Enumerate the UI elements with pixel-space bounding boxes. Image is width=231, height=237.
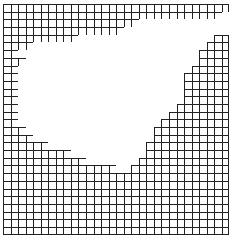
grid-cell (101, 212, 109, 220)
grid-cell (11, 58, 19, 66)
grid-cell (146, 173, 154, 181)
blank-cell (154, 89, 162, 97)
grid-cell (207, 150, 215, 158)
grid-cell (222, 219, 230, 227)
blank-cell (169, 81, 177, 89)
grid-cell (222, 212, 230, 220)
grid-cell (3, 19, 11, 27)
blank-cell (146, 50, 154, 58)
grid-cell (26, 173, 34, 181)
grid-cell (101, 4, 109, 12)
grid-cell (48, 19, 56, 27)
grid-cell (222, 66, 230, 74)
grid-cell (139, 173, 147, 181)
grid-cell (139, 189, 147, 197)
grid-cell (116, 219, 124, 227)
blank-cell (71, 50, 79, 58)
grid-cell (146, 196, 154, 204)
grid-cell (222, 96, 230, 104)
blank-cell (86, 150, 94, 158)
blank-cell (161, 50, 169, 58)
blank-cell (131, 104, 139, 112)
grid-cell (18, 150, 26, 158)
grid-cell (48, 173, 56, 181)
grid-cell (184, 112, 192, 120)
blank-cell (124, 135, 132, 143)
grid-cell (177, 189, 185, 197)
blank-cell (109, 66, 117, 74)
grid-cell (199, 227, 207, 235)
blank-cell (192, 27, 200, 35)
grid-cell (199, 73, 207, 81)
blank-cell (116, 135, 124, 143)
blank-cell (86, 112, 94, 120)
blank-cell (41, 112, 49, 120)
blank-cell (169, 73, 177, 81)
grid-cell (3, 227, 11, 235)
blank-cell (116, 35, 124, 43)
blank-cell (86, 142, 94, 150)
grid-cell (78, 12, 86, 20)
blank-cell (169, 66, 177, 74)
blank-cell (124, 73, 132, 81)
grid-cell (161, 189, 169, 197)
grid-cell (154, 4, 162, 12)
grid-cell (56, 35, 64, 43)
blank-cell (63, 135, 71, 143)
grid-cell (41, 158, 49, 166)
grid-cell (192, 158, 200, 166)
blank-cell (116, 119, 124, 127)
blank-cell (124, 104, 132, 112)
blank-cell (192, 35, 200, 43)
grid-cell (214, 58, 222, 66)
blank-cell (94, 35, 102, 43)
grid-cell (199, 104, 207, 112)
blank-cell (101, 150, 109, 158)
grid-cell (18, 181, 26, 189)
grid-cell (11, 212, 19, 220)
blank-cell (124, 58, 132, 66)
grid-cell (161, 165, 169, 173)
blank-cell (101, 104, 109, 112)
blank-cell (161, 42, 169, 50)
grid-cell (63, 19, 71, 27)
grid-cell (207, 50, 215, 58)
blank-cell (116, 58, 124, 66)
blank-cell (124, 42, 132, 50)
blank-cell (41, 73, 49, 81)
grid-cell (63, 173, 71, 181)
blank-cell (71, 119, 79, 127)
grid-cell (41, 142, 49, 150)
grid-cell (109, 12, 117, 20)
blank-cell (169, 58, 177, 66)
grid-cell (207, 12, 215, 20)
blank-cell (71, 127, 79, 135)
grid-cell (139, 4, 147, 12)
grid-cell (199, 89, 207, 97)
blank-cell (116, 150, 124, 158)
grid-cell (78, 173, 86, 181)
blank-cell (26, 66, 34, 74)
blank-cell (63, 142, 71, 150)
grid-cell (199, 135, 207, 143)
blank-cell (131, 58, 139, 66)
grid-cell (63, 158, 71, 166)
blank-cell (124, 127, 132, 135)
grid-cell (26, 27, 34, 35)
grid-cell (56, 227, 64, 235)
blank-cell (192, 58, 200, 66)
blank-cell (56, 96, 64, 104)
grid-cell (71, 27, 79, 35)
blank-cell (33, 135, 41, 143)
blank-cell (56, 73, 64, 81)
grid-cell (131, 204, 139, 212)
blank-cell (116, 81, 124, 89)
grid-cell (11, 104, 19, 112)
grid-cell (146, 158, 154, 166)
blank-cell (131, 112, 139, 120)
grid-cell (199, 150, 207, 158)
blank-cell (146, 127, 154, 135)
grid-cell (214, 112, 222, 120)
blank-cell (48, 58, 56, 66)
grid-cell (11, 127, 19, 135)
